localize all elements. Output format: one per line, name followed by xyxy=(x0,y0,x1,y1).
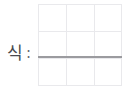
grid-horizontal-line-2 xyxy=(39,58,121,59)
grid-vertical-line-2 xyxy=(94,5,95,85)
grid-horizontal-line-1 xyxy=(39,31,121,32)
answer-writing-line[interactable] xyxy=(38,56,122,58)
answer-grid[interactable] xyxy=(38,4,122,86)
equation-prompt-label: 식 : xyxy=(7,45,31,62)
worksheet-answer-row: 식 : xyxy=(0,0,132,96)
prompt-colon-separator: : xyxy=(25,46,31,61)
grid-vertical-line-1 xyxy=(66,5,67,85)
prompt-label-text: 식 xyxy=(7,45,23,62)
